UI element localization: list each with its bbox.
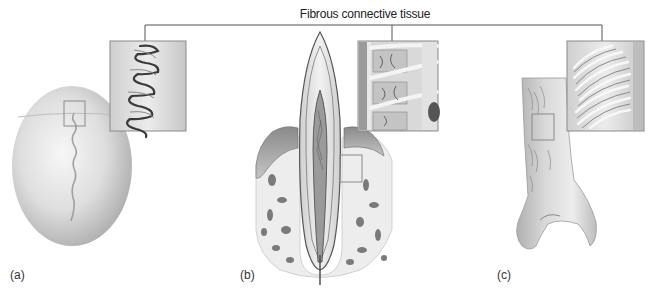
figure-illustration (0, 0, 655, 294)
periodontal-ligament-inset (358, 41, 440, 131)
panel-label-a: (a) (10, 268, 25, 282)
panel-label-c: (c) (497, 268, 511, 282)
suture-inset (110, 41, 186, 137)
ligament-fiber-inset (567, 41, 644, 131)
panel-label-b: (b) (240, 268, 255, 282)
connector-lines (145, 25, 602, 41)
